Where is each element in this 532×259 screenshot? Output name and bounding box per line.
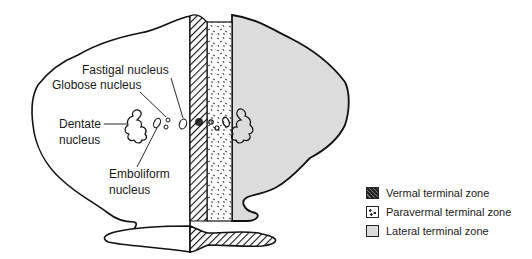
legend-label: Paravermal terminal zone xyxy=(386,206,511,218)
lower-lobe-left xyxy=(104,226,190,252)
fastigal-nucleus-right xyxy=(195,118,203,126)
left-hemisphere xyxy=(32,16,191,231)
paravermal-zone xyxy=(207,22,232,221)
dentate-nucleus-label-line1: Dentate xyxy=(59,117,101,131)
emboliform-nucleus-label-line2: nucleus xyxy=(109,183,150,197)
vermal-zone xyxy=(190,15,207,221)
fastigal-nucleus-label: Fastigal nucleus xyxy=(82,63,169,77)
lateral-zone xyxy=(232,15,349,221)
lateral-swatch-icon xyxy=(366,225,379,237)
legend-item-vermal: Vermal terminal zone xyxy=(366,183,511,202)
legend-label: Vermal terminal zone xyxy=(386,187,489,199)
globose-nucleus-label: Globose nucleus xyxy=(52,78,141,92)
legend: Vermal terminal zone Paravermal terminal… xyxy=(366,183,511,240)
legend-item-lateral: Lateral terminal zone xyxy=(366,221,511,240)
legend-label: Lateral terminal zone xyxy=(386,225,489,237)
dentate-nucleus-label-line2: nucleus xyxy=(59,133,100,147)
lower-lobe-vermal xyxy=(190,226,276,252)
legend-item-paravermal: Paravermal terminal zone xyxy=(366,202,511,221)
vermal-swatch-icon xyxy=(366,187,379,199)
paravermal-swatch-icon xyxy=(366,206,379,218)
emboliform-nucleus-label-line1: Emboliform xyxy=(109,167,170,181)
